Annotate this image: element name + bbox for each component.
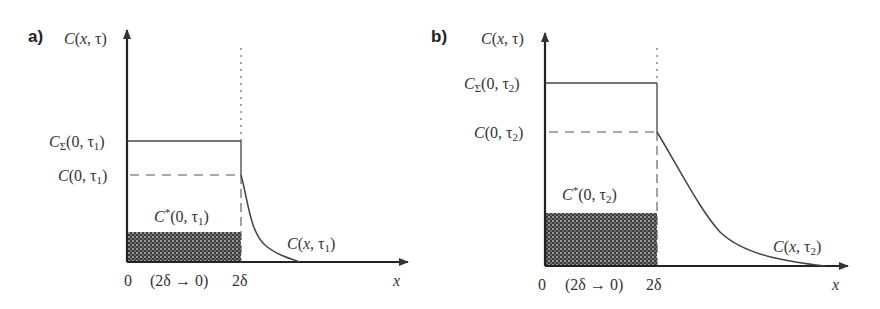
panel-a: a) C(x, τ) CΣ(0, τ1) C(0, τ1) C*(0, τ1) … <box>28 27 408 290</box>
shaded-label-a: C*(0, τ1) <box>154 206 209 227</box>
x-axis-label-b: x <box>831 276 839 293</box>
shaded-label-b: C*(0, τ2) <box>562 184 617 205</box>
surface-level-label-b: C(0, τ2) <box>474 124 523 143</box>
y-axis-label-b: C(x, τ) <box>481 30 524 48</box>
panel-b-label: b) <box>431 27 447 46</box>
total-level-label-b: CΣ(0, τ2) <box>464 75 520 94</box>
shaded-region-b <box>545 213 657 266</box>
x-tick-range-a: (2δ → 0) <box>150 272 208 290</box>
shaded-region-a <box>127 232 241 262</box>
x-tick-2delta-b: 2δ <box>646 276 662 293</box>
curve-label-a: C(x, τ1) <box>287 235 335 254</box>
x-axis-label-a: x <box>392 272 400 289</box>
x-tick-zero-b: 0 <box>538 276 546 293</box>
curve-label-b: C(x, τ2) <box>773 238 821 257</box>
x-tick-2delta-a: 2δ <box>232 272 248 289</box>
panel-b: b) C(x, τ) CΣ(0, τ2) C(0, τ2) C*(0, τ2) … <box>431 27 848 294</box>
panel-a-label: a) <box>28 27 43 46</box>
y-axis-label-a: C(x, τ) <box>64 30 107 48</box>
total-level-label-a: CΣ(0, τ1) <box>49 133 105 152</box>
x-tick-zero-a: 0 <box>124 272 132 289</box>
diagram-canvas: a) C(x, τ) CΣ(0, τ1) C(0, τ1) C*(0, τ1) … <box>0 0 880 309</box>
surface-level-label-a: C(0, τ1) <box>58 167 107 186</box>
x-tick-range-b: (2δ → 0) <box>565 276 623 294</box>
